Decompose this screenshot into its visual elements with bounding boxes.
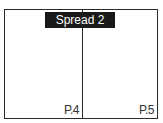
page-number-label: P.4 (64, 103, 79, 117)
page-number-label: P.5 (139, 103, 154, 117)
spread-title-label: Spread 2 (45, 12, 115, 28)
